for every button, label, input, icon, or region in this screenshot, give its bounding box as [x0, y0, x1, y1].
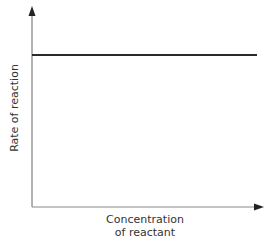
x-axis-label: Concentration of reactant — [106, 213, 184, 239]
x-axis — [32, 204, 264, 211]
y-axis — [29, 6, 36, 207]
y-axis-label: Rate of reaction — [8, 64, 21, 152]
chart-canvas — [0, 0, 273, 245]
y-axis-arrow-icon — [29, 6, 36, 16]
x-axis-label-line2: of reactant — [106, 226, 184, 239]
x-axis-label-line1: Concentration — [106, 213, 184, 226]
x-axis-arrow-icon — [254, 204, 264, 211]
